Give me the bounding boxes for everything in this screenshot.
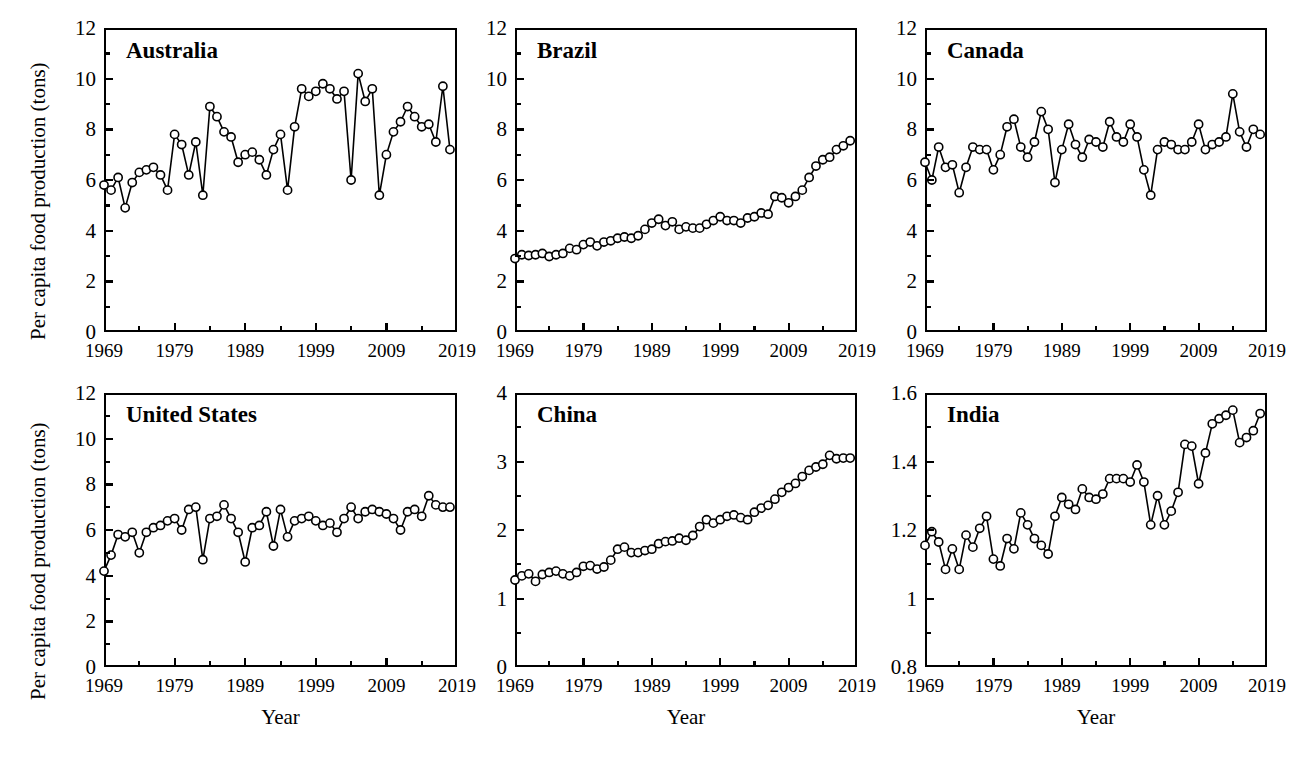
data-point <box>798 472 806 480</box>
data-point <box>1222 133 1230 141</box>
x-minor-tick <box>1232 661 1234 667</box>
data-point <box>234 528 242 536</box>
y-major-tick <box>925 461 934 463</box>
x-major-tick <box>174 323 176 332</box>
y-major-tick <box>104 280 113 282</box>
x-minor-tick <box>1095 326 1097 332</box>
data-point <box>805 173 813 181</box>
x-major-tick <box>244 658 246 667</box>
panel-title-canada: Canada <box>947 38 1024 64</box>
data-point <box>996 151 1004 159</box>
data-point <box>1037 108 1045 116</box>
y-minor-tick <box>515 204 521 206</box>
data-point <box>1051 512 1059 520</box>
data-point <box>921 541 929 549</box>
data-point <box>955 565 963 573</box>
data-point <box>220 501 228 509</box>
data-point <box>1188 138 1196 146</box>
data-point <box>425 120 433 128</box>
data-point <box>347 503 355 511</box>
y-tick-label: 12 <box>453 16 507 41</box>
x-major-tick <box>1061 658 1063 667</box>
data-point <box>989 166 997 174</box>
data-point <box>962 163 970 171</box>
y-major-tick <box>104 78 113 80</box>
data-point <box>1153 492 1161 500</box>
data-point <box>1017 509 1025 517</box>
y-major-tick <box>515 179 524 181</box>
data-point <box>1126 478 1134 486</box>
data-point <box>178 526 186 534</box>
y-minor-tick <box>925 255 931 257</box>
x-tick-label: 1979 <box>156 675 194 697</box>
x-tick-label: 1989 <box>226 675 264 697</box>
y-major-tick <box>515 598 524 600</box>
data-point <box>283 186 291 194</box>
y-minor-tick <box>104 52 110 54</box>
x-minor-tick <box>548 326 550 332</box>
y-minor-tick <box>104 506 110 508</box>
y-minor-tick <box>515 495 521 497</box>
x-major-tick <box>992 658 994 667</box>
x-tick-label: 2009 <box>367 340 405 362</box>
x-major-tick <box>1129 323 1131 332</box>
series-canada <box>925 28 1267 332</box>
data-point <box>340 87 348 95</box>
data-point <box>340 514 348 522</box>
data-point <box>1010 545 1018 553</box>
y-minor-tick <box>925 204 931 206</box>
x-tick-label: 2009 <box>367 675 405 697</box>
x-tick-label: 1999 <box>1111 675 1149 697</box>
x-major-tick <box>1061 323 1063 332</box>
data-point <box>128 528 136 536</box>
y-major-tick <box>104 529 113 531</box>
data-point <box>1140 166 1148 174</box>
data-point <box>935 538 943 546</box>
x-minor-tick <box>1095 661 1097 667</box>
data-point <box>1133 133 1141 141</box>
y-minor-tick <box>104 255 110 257</box>
data-point <box>1133 461 1141 469</box>
data-point <box>1065 120 1073 128</box>
data-point <box>1167 507 1175 515</box>
data-point <box>1071 140 1079 148</box>
data-point <box>354 70 362 78</box>
y-tick-label: 12 <box>863 16 917 41</box>
y-tick-label: 8 <box>863 117 917 142</box>
y-major-tick <box>104 575 113 577</box>
data-point <box>982 512 990 520</box>
x-major-tick <box>1129 658 1131 667</box>
y-tick-label: 2 <box>453 269 507 294</box>
x-major-tick <box>385 323 387 332</box>
data-point <box>375 191 383 199</box>
data-point <box>171 514 179 522</box>
x-minor-tick <box>958 326 960 332</box>
data-point <box>396 118 404 126</box>
data-point <box>1030 534 1038 542</box>
data-point <box>403 102 411 110</box>
data-point <box>1071 505 1079 513</box>
y-tick-label: 3 <box>453 449 507 474</box>
data-point <box>1195 120 1203 128</box>
y-tick-label: 12 <box>42 381 96 406</box>
data-point <box>921 158 929 166</box>
data-point <box>948 161 956 169</box>
x-tick-label: 1969 <box>906 340 944 362</box>
x-minor-tick <box>1027 326 1029 332</box>
y-minor-tick <box>925 306 931 308</box>
data-point <box>135 549 143 557</box>
data-point <box>411 113 419 121</box>
x-minor-tick <box>685 661 687 667</box>
y-minor-tick <box>925 495 931 497</box>
data-point <box>199 191 207 199</box>
data-point <box>1119 138 1127 146</box>
data-point <box>114 173 122 181</box>
series-brazil <box>515 28 857 332</box>
y-minor-tick <box>515 52 521 54</box>
y-tick-label: 2 <box>42 609 96 634</box>
y-tick-label: 6 <box>863 168 917 193</box>
x-tick-label: 1999 <box>701 340 739 362</box>
data-point <box>941 565 949 573</box>
data-point <box>1078 485 1086 493</box>
x-minor-tick <box>1232 326 1234 332</box>
